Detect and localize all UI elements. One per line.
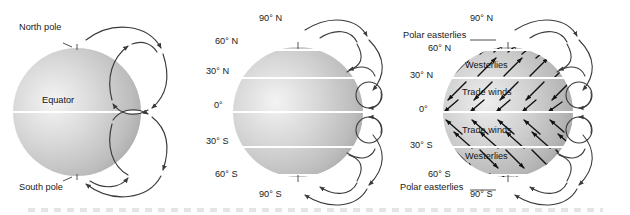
label-latitude-30n: 30° N [410, 71, 433, 80]
label-trade-winds-north: Trade winds [462, 88, 512, 97]
label-latitude-90s: 90° S [259, 190, 282, 199]
caption-strip [0, 206, 630, 215]
label-latitude-0: 0° [214, 101, 223, 110]
south-pole-leader [63, 177, 72, 181]
panel-2-graphics [205, 0, 410, 215]
label-westerlies-north: Westerlies [465, 61, 508, 70]
label-equator: Equator [42, 96, 74, 105]
label-latitude-60n: 60° N [428, 44, 451, 53]
label-latitude-30s: 30° S [410, 141, 433, 150]
label-latitude-30n: 30° N [206, 67, 229, 76]
label-westerlies-south: Westerlies [465, 152, 508, 161]
panel-three-cell-model: 90° N 60° N 30° N 0° 30° S 60° S 90° S [205, 0, 410, 215]
label-north-pole: North pole [19, 23, 61, 32]
label-latitude-60n: 60° N [215, 37, 238, 46]
label-latitude-90n: 90° N [259, 14, 282, 23]
label-latitude-60s: 60° S [428, 170, 451, 179]
label-latitude-60s: 60° S [215, 170, 238, 179]
north-pole-leader [63, 43, 72, 47]
panel-single-cell-model: North pole Equator South pole [0, 0, 210, 215]
label-polar-easterlies-north: Polar easterlies [403, 31, 466, 40]
label-trade-winds-south: Trade winds [462, 126, 512, 135]
label-latitude-0: 0° [419, 105, 428, 114]
label-latitude-30s: 30° S [206, 137, 229, 146]
atmospheric-circulation-figure: North pole Equator South pole [0, 0, 630, 215]
label-latitude-90n: 90° N [470, 14, 493, 23]
label-south-pole: South pole [19, 183, 63, 192]
caption-text-line [28, 208, 603, 212]
panel-surface-wind-belts: 90° N Polar easterlies 60° N Westerlies … [400, 0, 630, 215]
label-latitude-90s: 90° S [470, 190, 493, 199]
label-polar-easterlies-south: Polar easterlies [400, 183, 463, 192]
